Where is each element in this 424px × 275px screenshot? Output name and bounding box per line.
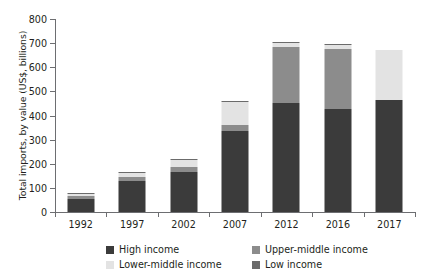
y-tick-label: 600 — [29, 62, 47, 73]
x-tick-label: 2012 — [274, 219, 298, 230]
y-tick-mark — [50, 67, 55, 68]
x-tick-mark — [55, 212, 56, 217]
legend-swatch-icon — [106, 246, 114, 254]
y-tick-label: 200 — [29, 158, 47, 169]
x-tick-label: 1997 — [120, 219, 144, 230]
bar-segment — [222, 131, 249, 212]
bar-segment — [324, 45, 351, 49]
bar-2016 — [324, 44, 351, 212]
legend-item-lower-middle-income[interactable]: Lower-middle income — [106, 259, 248, 270]
legend-label: Upper-middle income — [265, 244, 368, 255]
y-tick-mark — [50, 91, 55, 92]
bar-segment — [170, 159, 197, 160]
legend-swatch-icon — [106, 261, 114, 269]
bar-2002 — [170, 159, 197, 212]
x-tick-label: 2002 — [171, 219, 195, 230]
bar-2012 — [273, 42, 300, 212]
x-tick-mark — [158, 212, 159, 217]
legend-label: Low income — [265, 259, 322, 270]
x-axis-line — [55, 212, 415, 213]
plot-area: 0100200300400500600700800 19921997200220… — [55, 19, 415, 212]
y-tick-mark — [50, 164, 55, 165]
chart-legend: High incomeUpper-middle incomeLower-midd… — [106, 242, 406, 272]
x-tick-label: 2007 — [223, 219, 247, 230]
bar-segment — [119, 173, 146, 177]
bar-segment — [67, 194, 94, 196]
bar-segment — [119, 172, 146, 173]
x-tick-mark — [415, 212, 416, 217]
x-tick-mark — [364, 212, 365, 217]
legend-item-low-income[interactable]: Low income — [252, 259, 406, 270]
legend-label: Lower-middle income — [119, 259, 222, 270]
x-tick-label: 1992 — [68, 219, 92, 230]
bar-segment — [170, 172, 197, 212]
x-tick-label: 2016 — [326, 219, 350, 230]
bar-segment — [67, 199, 94, 212]
y-tick-label: 100 — [29, 182, 47, 193]
bar-segment — [119, 177, 146, 180]
x-tick-label: 2017 — [377, 219, 401, 230]
y-axis-title: Total imports, by value (US$, billions) — [17, 8, 28, 224]
legend-item-high-income[interactable]: High income — [106, 244, 248, 255]
y-tick-label: 300 — [29, 134, 47, 145]
bar-segment — [222, 102, 249, 126]
y-axis-line — [55, 19, 56, 212]
bar-segment — [324, 109, 351, 212]
bar-segment — [170, 160, 197, 168]
legend-swatch-icon — [252, 261, 260, 269]
legend-label: High income — [119, 244, 179, 255]
bar-segment — [273, 42, 300, 43]
bar-segment — [67, 193, 94, 194]
bar-segment — [376, 50, 403, 99]
y-tick-mark — [50, 188, 55, 189]
bar-segment — [67, 196, 94, 198]
y-tick-label: 400 — [29, 110, 47, 121]
bar-segment — [376, 100, 403, 212]
stacked-bar-chart: Total imports, by value (US$, billions) … — [0, 0, 424, 275]
y-tick-mark — [50, 116, 55, 117]
x-tick-mark — [312, 212, 313, 217]
bar-2007 — [222, 101, 249, 212]
bar-1992 — [67, 193, 94, 212]
y-tick-mark — [50, 43, 55, 44]
bar-segment — [324, 49, 351, 109]
bar-segment — [273, 43, 300, 47]
y-tick-label: 500 — [29, 86, 47, 97]
legend-swatch-icon — [252, 246, 260, 254]
bar-segment — [273, 47, 300, 104]
x-tick-mark — [261, 212, 262, 217]
bar-segment — [222, 125, 249, 131]
x-tick-mark — [209, 212, 210, 217]
legend-item-upper-middle-income[interactable]: Upper-middle income — [252, 244, 406, 255]
y-tick-mark — [50, 19, 55, 20]
y-tick-label: 700 — [29, 38, 47, 49]
x-tick-mark — [106, 212, 107, 217]
y-tick-label: 0 — [41, 207, 47, 218]
bar-1997 — [119, 172, 146, 212]
bar-segment — [273, 103, 300, 212]
bar-segment — [170, 167, 197, 172]
y-tick-mark — [50, 140, 55, 141]
bar-segment — [119, 181, 146, 212]
bar-2017 — [376, 50, 403, 212]
y-tick-label: 800 — [29, 14, 47, 25]
